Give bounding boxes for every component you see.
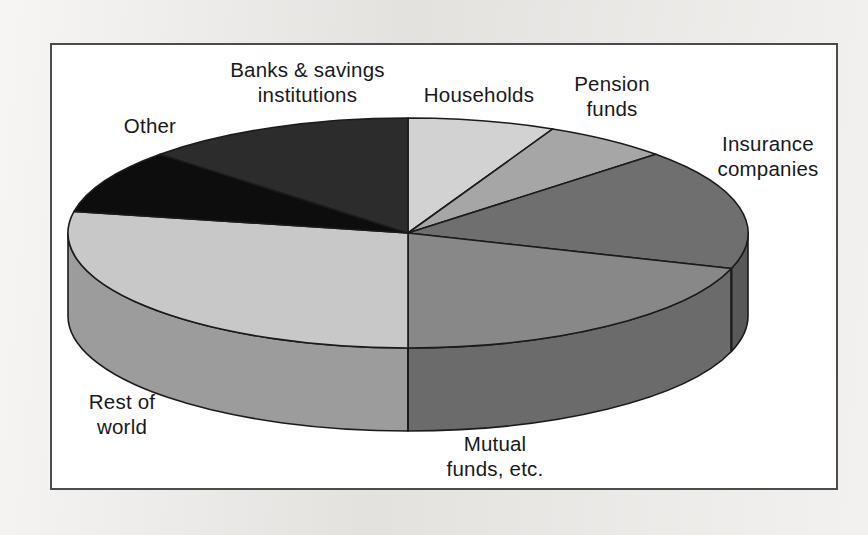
slice-label-banks-line1: Banks & savings [230,58,385,81]
slice-label-banks-line2: institutions [258,83,357,106]
pie-body [68,118,748,431]
slice-label-other: Other [104,113,196,138]
slice-label-rest-line1: Rest of [89,390,155,413]
slice-label-pension-line1: Pension [574,72,649,95]
slice-label-mutual-line1: Mutual [464,432,527,455]
slice-label-rest-of-world: Rest ofworld [52,389,192,439]
slice-label-households: Households [404,82,554,107]
slice-label-pension-funds: Pensionfunds [552,71,672,121]
slice-label-rest-line2: world [97,415,147,438]
slice-label-mutual-line2: funds, etc. [447,457,544,480]
slice-label-insurance-line1: Insurance [722,132,814,155]
slice-label-insurance-companies: Insurancecompanies [688,131,848,181]
pie-top-faces [68,118,748,348]
slice-label-mutual-funds: Mutualfunds, etc. [400,431,590,481]
slice-label-households-text: Households [424,83,534,106]
slice-label-pension-line2: funds [586,97,637,120]
slice-label-other-text: Other [124,114,176,137]
slice-label-banks: Banks & savingsinstitutions [190,57,425,107]
slice-label-insurance-line2: companies [718,157,819,180]
